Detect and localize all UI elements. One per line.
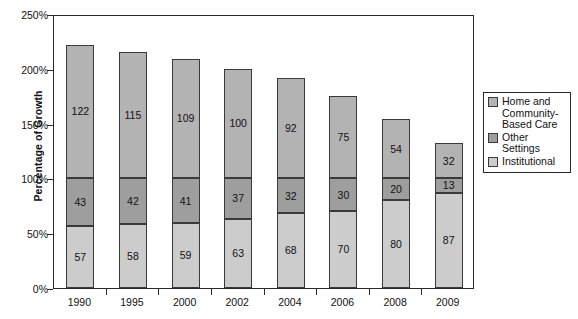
bar-value-label: 30	[338, 190, 350, 201]
bar-segment[interactable]: 42	[119, 178, 147, 224]
bar-value-label: 32	[285, 191, 297, 202]
x-tick-mark	[264, 289, 265, 295]
legend-swatch-icon	[488, 97, 498, 107]
bar-segment[interactable]: 37	[224, 178, 252, 219]
bar-segment[interactable]: 70	[329, 211, 357, 288]
plot-area: 5743122584211559411096337100683292703075…	[53, 15, 474, 289]
chart-legend: Home and Community- Based CareOther Sett…	[483, 92, 571, 173]
y-tick-mark	[47, 289, 53, 290]
x-tick-label: 2008	[383, 296, 406, 308]
bar-value-label: 92	[285, 123, 297, 134]
bar-segment[interactable]: 115	[119, 52, 147, 178]
x-tick-label: 2002	[226, 296, 249, 308]
bar-value-label: 122	[72, 106, 90, 117]
bar-value-label: 63	[232, 248, 244, 259]
bar-stack[interactable]: 6337100	[224, 14, 252, 288]
bar-value-label: 75	[338, 132, 350, 143]
x-tick-label: 1995	[120, 296, 143, 308]
bar-value-label: 68	[285, 245, 297, 256]
bar-value-label: 57	[74, 252, 86, 263]
bar-value-label: 20	[390, 184, 402, 195]
legend-label: Home and Community- Based Care	[502, 96, 559, 131]
bar-value-label: 42	[127, 196, 139, 207]
bar-value-label: 54	[390, 144, 402, 155]
bar-stack[interactable]: 5743122	[66, 14, 94, 288]
bar-value-label: 41	[180, 196, 192, 207]
x-tick-label: 2004	[278, 296, 301, 308]
x-tick-label: 2006	[331, 296, 354, 308]
x-tick-label: 1990	[68, 296, 91, 308]
bar-segment[interactable]: 80	[382, 200, 410, 288]
x-tick-mark	[421, 289, 422, 295]
bar-stack[interactable]: 703075	[329, 14, 357, 288]
legend-label: Institutional	[502, 156, 555, 168]
bar-segment[interactable]: 13	[435, 178, 463, 192]
bar-segment[interactable]: 87	[435, 193, 463, 288]
bar-segment[interactable]: 41	[172, 178, 200, 223]
legend-entry[interactable]: Other Settings	[488, 132, 567, 155]
bar-segment[interactable]: 58	[119, 224, 147, 288]
y-tick-label: 100%	[2, 173, 48, 185]
legend-entry[interactable]: Institutional	[488, 156, 567, 168]
bar-segment[interactable]: 32	[277, 178, 305, 213]
bar-value-label: 70	[338, 244, 350, 255]
bar-value-label: 100	[229, 118, 247, 129]
bar-segment[interactable]: 57	[66, 226, 94, 288]
x-tick-label: 2009	[436, 296, 459, 308]
x-tick-mark	[158, 289, 159, 295]
stacked-bar-chart: Percentage of Growth 0%50%100%150%200%25…	[0, 0, 578, 319]
bar-segment[interactable]: 92	[277, 78, 305, 179]
bar-value-label: 87	[443, 235, 455, 246]
x-tick-mark	[316, 289, 317, 295]
bar-segment[interactable]: 30	[329, 178, 357, 211]
bar-segment[interactable]: 109	[172, 59, 200, 178]
bar-segment[interactable]: 68	[277, 213, 305, 288]
bar-segment[interactable]: 20	[382, 178, 410, 200]
legend-entry[interactable]: Home and Community- Based Care	[488, 96, 567, 131]
x-tick-mark	[106, 289, 107, 295]
x-tick-mark	[211, 289, 212, 295]
bar-value-label: 43	[74, 197, 86, 208]
bar-stack[interactable]: 802054	[382, 14, 410, 288]
bar-stack[interactable]: 5842115	[119, 14, 147, 288]
bar-segment[interactable]: 75	[329, 96, 357, 178]
bar-segment[interactable]: 32	[435, 143, 463, 178]
bar-segment[interactable]: 122	[66, 45, 94, 179]
bar-stack[interactable]: 871332	[435, 14, 463, 288]
bar-value-label: 58	[127, 251, 139, 262]
bar-segment[interactable]: 100	[224, 69, 252, 179]
legend-label: Other Settings	[502, 132, 567, 155]
y-tick-label: 0%	[2, 283, 48, 295]
bar-value-label: 115	[125, 110, 142, 121]
y-tick-label: 50%	[2, 228, 48, 240]
bar-stack[interactable]: 5941109	[172, 14, 200, 288]
bar-segment[interactable]: 63	[224, 219, 252, 288]
x-tick-label: 2000	[173, 296, 196, 308]
y-tick-label: 250%	[2, 9, 48, 21]
y-tick-label: 150%	[2, 119, 48, 131]
legend-swatch-icon	[488, 157, 498, 167]
bar-value-label: 13	[443, 180, 455, 191]
bar-value-label: 37	[232, 193, 244, 204]
legend-swatch-icon	[488, 133, 498, 143]
bar-segment[interactable]: 43	[66, 178, 94, 225]
bar-segment[interactable]: 59	[172, 223, 200, 288]
y-tick-label: 200%	[2, 64, 48, 76]
bar-segment[interactable]: 54	[382, 119, 410, 178]
bar-value-label: 59	[180, 250, 192, 261]
bar-stack[interactable]: 683292	[277, 14, 305, 288]
bar-value-label: 80	[390, 239, 402, 250]
bar-value-label: 109	[177, 113, 195, 124]
x-tick-mark	[369, 289, 370, 295]
y-axis-title: Percentage of Growth	[32, 46, 44, 246]
bar-value-label: 32	[443, 156, 455, 167]
